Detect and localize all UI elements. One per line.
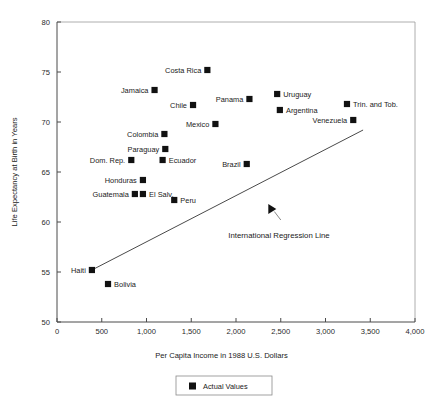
x-tick-label: 3,500 xyxy=(361,327,380,336)
data-point-label: Brazil xyxy=(222,160,241,169)
data-point-marker xyxy=(162,146,168,152)
data-point-marker xyxy=(132,191,138,197)
data-point-label: Jamaica xyxy=(121,86,149,95)
annotation-group: International Regression Line xyxy=(228,204,329,240)
data-point-marker xyxy=(212,121,218,127)
plot-area: 05001,0001,5002,0002,5003,0003,5004,0005… xyxy=(0,0,443,407)
y-tick-label: 65 xyxy=(42,168,50,177)
data-point-marker xyxy=(246,96,252,102)
x-tick-label: 0 xyxy=(55,327,59,336)
x-tick-label: 1,500 xyxy=(182,327,201,336)
axis-tick-labels: 05001,0001,5002,0002,5003,0003,5004,0005… xyxy=(42,18,425,336)
data-point-label: Venezuela xyxy=(313,116,348,125)
data-point-label: Bolivia xyxy=(114,280,137,289)
data-point-label: Mexico xyxy=(186,120,209,129)
data-point-label: Ecuador xyxy=(169,156,197,165)
data-point-marker xyxy=(128,157,134,163)
data-point-marker xyxy=(105,281,111,287)
data-point-marker xyxy=(151,87,157,93)
data-point-label: Guatemala xyxy=(93,190,130,199)
legend-label: Actual Values xyxy=(203,382,248,391)
y-tick-label: 75 xyxy=(42,68,50,77)
scatter-chart: 05001,0001,5002,0002,5003,0003,5004,0005… xyxy=(0,0,443,407)
data-point-marker xyxy=(161,131,167,137)
data-point-label: Chile xyxy=(170,101,187,110)
x-tick-label: 2,500 xyxy=(271,327,290,336)
data-point-marker xyxy=(344,101,350,107)
data-point-marker xyxy=(274,91,280,97)
data-point-marker xyxy=(171,197,177,203)
y-tick-label: 80 xyxy=(42,18,50,27)
data-point-marker xyxy=(204,67,210,73)
data-point-label: Dom. Rep. xyxy=(90,156,125,165)
data-point-marker xyxy=(160,157,166,163)
data-point-label: Peru xyxy=(180,196,196,205)
annotation-label: International Regression Line xyxy=(228,231,329,240)
data-point-label: El Salv. xyxy=(149,190,174,199)
x-axis-title: Per Capita Income in 1988 U.S. Dollars xyxy=(155,351,288,360)
y-axis-title: Life Expectancy at Birth in Years xyxy=(10,117,19,226)
data-point-label: Paraguay xyxy=(128,145,160,154)
y-tick-label: 55 xyxy=(42,268,50,277)
data-point-marker xyxy=(244,161,250,167)
x-tick-label: 3,000 xyxy=(316,327,335,336)
data-point-marker xyxy=(140,177,146,183)
axis-ticks xyxy=(57,22,415,322)
y-tick-label: 60 xyxy=(42,218,50,227)
plot-frame xyxy=(57,22,415,322)
data-point-label: Haiti xyxy=(71,266,86,275)
data-point-label: Argentina xyxy=(286,106,319,115)
x-tick-label: 4,000 xyxy=(405,327,424,336)
legend-marker-icon xyxy=(189,383,196,390)
data-point-marker xyxy=(190,102,196,108)
data-point-label: Panama xyxy=(216,95,244,104)
data-point-marker xyxy=(89,267,95,273)
data-point-label: Uruguay xyxy=(283,90,311,99)
data-point-marker xyxy=(140,191,146,197)
chart-legend: Actual Values xyxy=(176,376,272,395)
x-tick-label: 1,000 xyxy=(137,327,156,336)
y-tick-label: 50 xyxy=(42,318,50,327)
y-tick-label: 70 xyxy=(42,118,50,127)
x-tick-label: 500 xyxy=(95,327,108,336)
data-point-label: Costa Rica xyxy=(165,66,202,75)
data-point-marker xyxy=(277,107,283,113)
data-point-label: Trin. and Tob. xyxy=(353,100,398,109)
data-point-label: Honduras xyxy=(105,176,137,185)
data-point-label: Colombia xyxy=(127,130,159,139)
x-tick-label: 2,000 xyxy=(226,327,245,336)
data-point-marker xyxy=(350,117,356,123)
